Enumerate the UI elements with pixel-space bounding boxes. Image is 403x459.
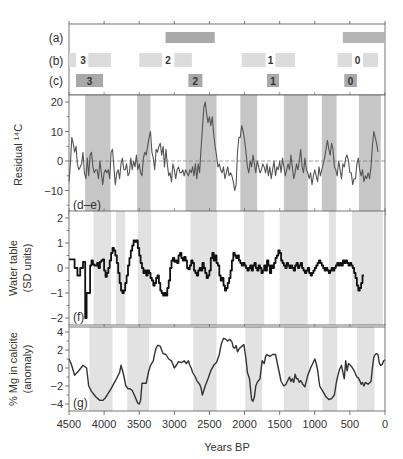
paleoclimate-figure: (a)(b)3210(c)3210 20100−10(d–e)Residual …	[0, 0, 403, 459]
y-axis-label: (anomaly)	[21, 345, 33, 394]
shaded-band	[322, 95, 337, 215]
strip-bar	[343, 32, 385, 43]
shaded-band	[284, 327, 309, 411]
strip-bar	[69, 53, 76, 67]
x-tick-label: 2000	[232, 418, 256, 430]
strip-period-label: 0	[355, 55, 361, 66]
x-tick-label: 500	[341, 418, 359, 430]
x-tick-label: 4000	[92, 418, 116, 430]
y-tick-label: 1	[57, 237, 63, 249]
shaded-band	[352, 211, 383, 325]
strip-period-label: 1	[268, 55, 274, 66]
strip-bar	[166, 32, 215, 43]
y-tick-label: 2	[57, 344, 63, 356]
strip-bar	[338, 53, 352, 67]
shaded-band	[323, 327, 338, 411]
shaded-band	[85, 95, 110, 215]
shaded-band	[89, 327, 112, 411]
y-tick-label: 10	[51, 126, 63, 138]
shaded-band	[359, 95, 381, 215]
x-tick-label: 1500	[267, 418, 291, 430]
y-axis-label: % Mg in calcite	[7, 332, 19, 406]
top-strip-panel: (a)(b)3210(c)3210	[49, 21, 385, 95]
y-tick-label: 2	[57, 212, 63, 224]
y-axis-label: Residual ¹⁴C	[12, 124, 24, 186]
strip-bar	[275, 53, 295, 67]
x-tick-label: 3500	[127, 418, 151, 430]
panel-tag: (g)	[73, 396, 88, 410]
strip-bar	[139, 53, 162, 67]
panel-tag: (d–e)	[73, 198, 101, 212]
strip-period-label: 3	[80, 55, 86, 66]
strip-bar	[363, 53, 378, 67]
y-axis-label: (SD units)	[21, 244, 33, 293]
panel-d-e-residual-14c: 20100−10(d–e)Residual ¹⁴C	[12, 95, 385, 215]
strip-row-label: (a)	[49, 31, 64, 45]
y-tick-label: −2	[50, 380, 63, 392]
panel-g-mg-calcite: 420−2−4(g)% Mg in calcite(anomaly)	[7, 326, 385, 411]
x-tick-label: 1000	[303, 418, 327, 430]
shaded-band	[240, 95, 257, 215]
strip-bar	[242, 53, 266, 67]
strip-period-label: 2	[165, 55, 171, 66]
shaded-band	[127, 327, 149, 411]
panel-background	[69, 95, 385, 215]
strip-bar-label: 1	[270, 76, 276, 87]
y-tick-label: −2	[50, 312, 63, 324]
strip-bar-label: 2	[193, 76, 199, 87]
shaded-band	[284, 95, 308, 215]
strip-bar	[174, 53, 192, 67]
y-tick-label: 20	[51, 96, 63, 108]
x-tick-label: 2500	[197, 418, 221, 430]
y-tick-label: −1	[50, 287, 63, 299]
panel-tag: (f)	[73, 310, 84, 324]
strip-bar	[88, 53, 111, 67]
x-tick-label: 0	[382, 418, 388, 430]
y-tick-label: 4	[57, 326, 63, 338]
shaded-band	[193, 327, 216, 411]
y-tick-label: 0	[57, 155, 63, 167]
strip-row-label: (b)	[49, 54, 64, 68]
y-tick-label: 0	[57, 262, 63, 274]
x-axis-label: Years BP	[204, 441, 249, 453]
y-tick-label: −10	[44, 185, 63, 197]
y-axis-label: Water table	[7, 240, 19, 296]
strip-bar-label: 0	[348, 76, 354, 87]
y-tick-label: 0	[57, 362, 63, 374]
panel-f-water-table: 210−1−2(f)Water table(SD units)	[7, 211, 385, 325]
strip-row-label: (c)	[49, 74, 63, 88]
x-tick-label: 3000	[162, 418, 186, 430]
strip-bar-label: 3	[87, 76, 93, 87]
x-tick-label: 4500	[57, 418, 81, 430]
shaded-band	[138, 211, 151, 325]
y-tick-label: −4	[50, 398, 63, 410]
